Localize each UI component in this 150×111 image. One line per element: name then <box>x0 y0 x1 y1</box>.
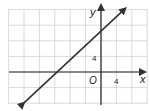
grid-lines <box>9 9 148 104</box>
coordinate-plane: x y O 4 4 <box>0 0 150 111</box>
y-tick-4: 4 <box>92 54 97 63</box>
origin-label: O <box>89 75 97 86</box>
x-axis-label: x <box>139 73 146 85</box>
y-axis-label: y <box>89 6 97 18</box>
x-tick-4: 4 <box>114 77 119 86</box>
